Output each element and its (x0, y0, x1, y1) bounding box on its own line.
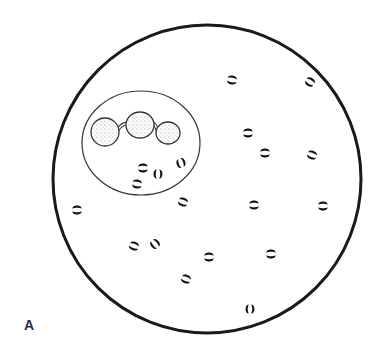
diplococcus-extracellular (318, 202, 327, 211)
microscopy-figure (0, 0, 381, 359)
leukocyte (82, 91, 200, 195)
panel-label: A (24, 317, 34, 333)
diplococcus-extracellular (243, 129, 252, 138)
diplococcus-extracellular (227, 75, 237, 85)
diplococcus-intracellular (132, 179, 142, 189)
diplococcus-extracellular (266, 250, 275, 259)
diplococcus-extracellular (180, 273, 192, 284)
diplococcus-extracellular (246, 304, 255, 313)
intracellular-diplococci (132, 157, 187, 189)
diplococcus-extracellular (304, 76, 316, 88)
diplococcus-extracellular (306, 149, 318, 160)
diplococcus-extracellular (177, 196, 189, 207)
diplococcus-extracellular (149, 238, 162, 251)
diplococcus-extracellular (72, 206, 81, 215)
diplococcus-intracellular (138, 164, 147, 173)
diplococcus-intracellular (154, 169, 163, 178)
diplococcus-intracellular (175, 157, 186, 169)
diplococcus-extracellular (204, 253, 213, 262)
diplococcus-extracellular (249, 201, 258, 210)
diplococcus-extracellular (260, 149, 269, 158)
diplococcus-extracellular (128, 240, 140, 251)
extracellular-diplococci (72, 75, 327, 314)
